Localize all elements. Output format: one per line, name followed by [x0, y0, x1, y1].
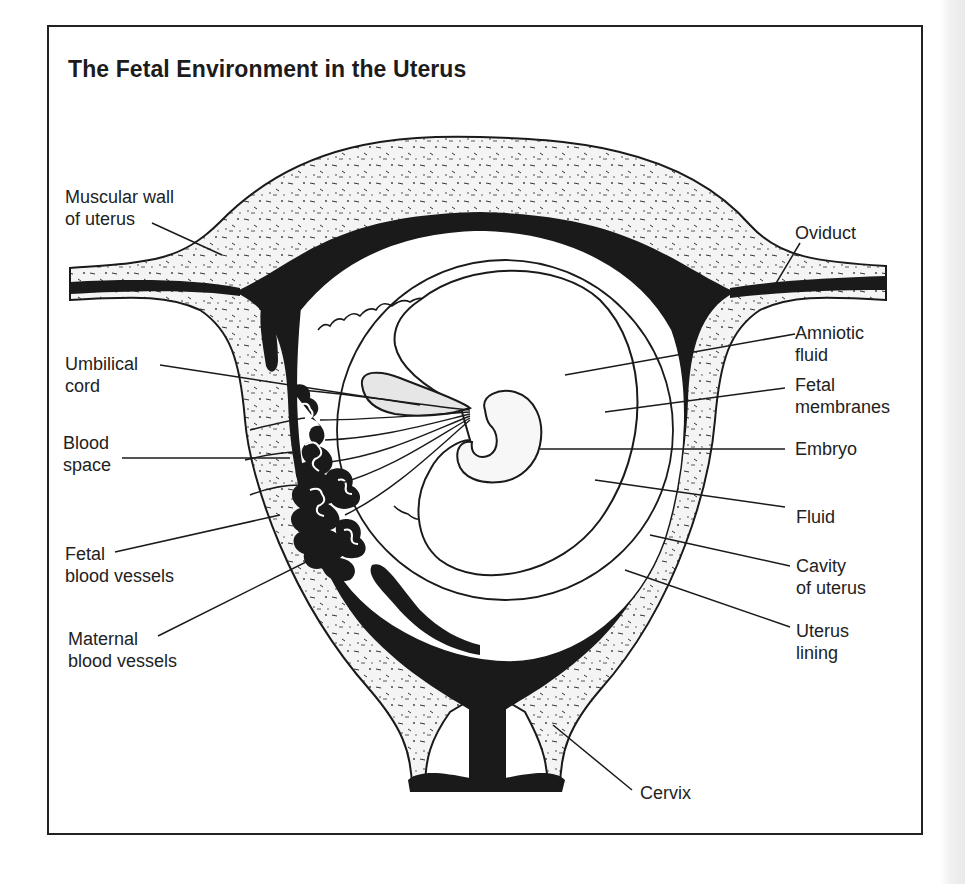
label-fluid: Fluid — [796, 506, 835, 528]
label-umbilical-cord: Umbilical cord — [65, 353, 138, 397]
label-muscular-wall: Muscular wall of uterus — [65, 186, 174, 230]
label-fetal-blood-vessels: Fetal blood vessels — [65, 543, 174, 587]
label-amniotic-fluid: Amniotic fluid — [795, 322, 864, 366]
label-embryo: Embryo — [795, 438, 857, 460]
label-cavity-of-uterus: Cavity of uterus — [796, 555, 866, 599]
label-oviduct: Oviduct — [795, 222, 856, 244]
label-cervix: Cervix — [640, 782, 691, 804]
label-blood-space: Blood space — [63, 432, 111, 476]
label-maternal-blood-vessels: Maternal blood vessels — [68, 628, 177, 672]
label-uterus-lining: Uterus lining — [796, 620, 849, 664]
label-fetal-membranes: Fetal membranes — [795, 374, 890, 418]
